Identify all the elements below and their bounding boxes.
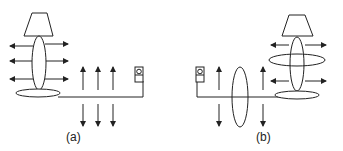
power-cord — [58, 81, 143, 97]
electric-field-arrows-right — [45, 44, 68, 79]
cord-field-arrows-down — [219, 104, 263, 126]
electric-field-arrows-right — [305, 45, 326, 81]
lamp-base-icon — [275, 91, 319, 99]
lampshade-icon — [24, 13, 53, 36]
cord-field-arrows-down — [83, 104, 113, 126]
lamp-body-icon — [32, 36, 46, 90]
panel-b-caption: (b) — [256, 131, 271, 143]
lamp-field-diagram: (a) (b) — [0, 0, 343, 151]
wall-switch-icon — [196, 67, 204, 82]
panel-b — [196, 15, 326, 127]
panel-a-caption: (a) — [66, 131, 81, 143]
magnetic-field-loop-lamp — [269, 54, 325, 66]
cord-field-arrows-up — [219, 67, 263, 90]
panel-a — [10, 13, 143, 126]
lamp-body-icon — [290, 37, 304, 91]
lamp-base-icon — [16, 89, 60, 97]
wall-switch-icon — [135, 67, 143, 82]
lampshade-icon — [282, 15, 313, 36]
electric-field-arrows-left — [10, 46, 33, 79]
diagram-canvas — [0, 0, 343, 151]
cord-field-arrows-up — [83, 67, 113, 90]
